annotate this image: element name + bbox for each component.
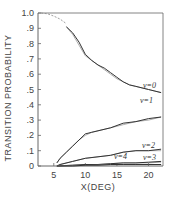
series-label-nu-3: ν=3 xyxy=(143,153,156,162)
x-tick-label: 20 xyxy=(143,170,153,180)
y-tick-label: .3 xyxy=(26,115,34,125)
y-tick-label: .7 xyxy=(26,54,34,64)
x-axis-title: X(DEG) xyxy=(81,182,116,192)
series-nu-3-experiment-curve xyxy=(57,161,161,166)
y-tick-label: 0 xyxy=(29,161,34,171)
y-tick-label: .1 xyxy=(26,146,34,156)
y-tick-label: .9 xyxy=(26,23,34,33)
x-tick-label: 10 xyxy=(80,170,90,180)
y-tick-label: .5 xyxy=(26,85,34,95)
series-nu-0-dashed-curve xyxy=(41,13,66,24)
y-tick-label: .8 xyxy=(26,39,34,49)
series-label-nu-1: ν=1 xyxy=(140,96,153,105)
series-label-nu-2: ν=2 xyxy=(142,141,155,150)
y-tick-label: 1.0 xyxy=(21,8,34,18)
y-tick-label: .4 xyxy=(26,100,34,110)
series-label-nu-4: ν=4 xyxy=(114,152,127,161)
series-label-nu-0: ν=0 xyxy=(143,81,156,90)
x-tick-label: 15 xyxy=(112,170,122,180)
x-tick-label: 5 xyxy=(51,170,56,180)
y-axis-title: TRANSITION PROBABILITY xyxy=(3,34,13,161)
transition-probability-chart: 0.1.2.3.4.5.6.7.8.91.0 5101520 ν=0ν=1ν=2… xyxy=(0,0,172,203)
y-tick-label: .2 xyxy=(26,130,34,140)
y-tick-label: .6 xyxy=(26,69,34,79)
